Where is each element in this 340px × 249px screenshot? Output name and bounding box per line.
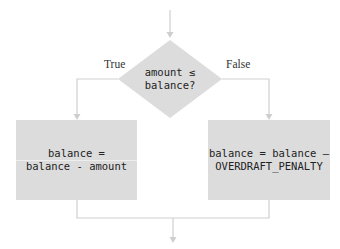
false-box-line-1: balance = balance – xyxy=(208,147,330,160)
arrow-down-icon xyxy=(167,32,174,38)
false-branch-connector xyxy=(222,79,273,120)
true-box-line-2: balance - amount xyxy=(16,160,137,173)
decision-text: amount ≤ balance? xyxy=(120,66,220,92)
merge-connector xyxy=(77,200,269,243)
arrow-down-icon xyxy=(74,114,81,120)
true-box-line-1: balance = xyxy=(16,147,137,160)
flowchart-canvas xyxy=(0,0,340,249)
true-box-text: balance = balance - amount xyxy=(16,147,137,173)
true-branch-connector xyxy=(74,79,119,120)
arrow-down-icon xyxy=(170,237,177,243)
decision-line-2: balance? xyxy=(120,79,220,92)
false-branch-label: False xyxy=(226,59,250,71)
arrow-down-icon xyxy=(266,114,273,120)
decision-line-1: amount ≤ xyxy=(120,66,220,79)
false-box-text: balance = balance – OVERDRAFT_PENALTY xyxy=(208,147,330,173)
false-box-line-2: OVERDRAFT_PENALTY xyxy=(208,160,330,173)
entry-connector xyxy=(167,10,174,38)
